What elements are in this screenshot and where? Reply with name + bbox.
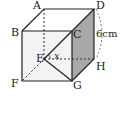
edge-length-label: 6cm [96, 29, 117, 39]
vertex-c-label: C [73, 29, 81, 40]
vertex-f-label: F [11, 78, 19, 89]
vertex-d-label: D [96, 0, 105, 11]
vertex-b-label: B [11, 27, 19, 38]
angle-x-label: x [54, 51, 60, 61]
vertex-g-label: G [73, 80, 82, 91]
cube-diagram [0, 0, 125, 113]
vertex-e-label: E [36, 53, 44, 64]
vertex-a-label: A [33, 0, 41, 11]
vertex-h-label: H [96, 61, 106, 72]
